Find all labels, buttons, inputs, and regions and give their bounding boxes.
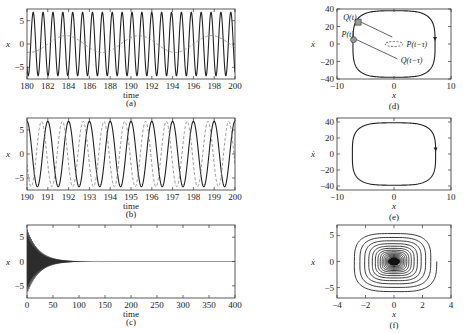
y-tick-label: 5 — [330, 230, 335, 240]
series-line — [27, 121, 235, 186]
panel-label: (f) — [390, 320, 399, 330]
y-tick-label: 5 — [20, 125, 25, 135]
series-line — [27, 230, 235, 292]
x-tick-label: 100 — [72, 300, 86, 310]
y-tick-label: −20 — [320, 57, 335, 67]
x-tick-label: 192 — [145, 81, 159, 91]
figure: 180182184186188190192194196198200−505tim… — [0, 0, 465, 333]
x-tick-label: −4 — [332, 300, 342, 310]
y-axis-label: x — [5, 39, 10, 49]
y-tick-label: −40 — [320, 181, 335, 191]
y-tick-label: 0 — [20, 257, 25, 267]
arrow-q — [361, 22, 392, 37]
y-tick-label: 0 — [330, 149, 335, 159]
y-tick-label: −5 — [14, 62, 24, 72]
panel-f: −4−2024−505x(f)ẋ — [310, 225, 454, 330]
x-tick-label: 10 — [447, 81, 457, 91]
y-tick-label: 5 — [20, 232, 25, 242]
y-tick-label: 20 — [325, 22, 335, 32]
direction-arrow-icon — [434, 148, 438, 152]
x-tick-label: 250 — [150, 300, 164, 310]
x-tick-label: 196 — [187, 81, 201, 91]
limit-cycle — [352, 123, 435, 185]
panel-d: −10010−40−2002040x(d)ẋQ(t)P(t)P(t−τ)Q(t−… — [310, 4, 456, 111]
y-tick-label: 20 — [325, 133, 335, 143]
plot-area — [352, 123, 437, 185]
panel-e: −10010−40−2002040x(e)ẋ — [310, 117, 456, 222]
panel-label: (a) — [126, 98, 136, 108]
x-tick-label: 197 — [166, 192, 180, 202]
y-axis-label: ẋ — [310, 149, 315, 159]
arrow-p — [357, 40, 398, 59]
x-tick-label: 4 — [449, 300, 454, 310]
x-tick-label: 192 — [62, 192, 76, 202]
x-tick-label: 191 — [41, 192, 55, 202]
plot-frame — [27, 118, 235, 190]
panel-label: (c) — [126, 317, 136, 327]
plot-area — [27, 121, 235, 186]
panel-c: 050100150200250300350400−505time(c)x — [5, 225, 242, 327]
panel-b: 190191192193194195196197198199200−505tim… — [5, 118, 242, 219]
x-tick-label: 186 — [83, 81, 97, 91]
x-axis-label: x — [391, 309, 396, 319]
panel-label: (e) — [389, 212, 399, 222]
x-tick-label: 50 — [49, 300, 59, 310]
x-tick-label: 184 — [62, 81, 76, 91]
y-axis-label: ẋ — [310, 257, 315, 267]
x-tick-label: 194 — [166, 81, 180, 91]
spiral-center — [388, 258, 400, 266]
y-axis-label: x — [5, 149, 10, 159]
annotation: Q(t−τ) — [401, 56, 423, 65]
y-tick-label: 5 — [20, 16, 25, 26]
x-tick-label: 190 — [20, 192, 34, 202]
x-axis-label: x — [391, 201, 396, 211]
small-cycle — [385, 42, 403, 47]
y-tick-label: 40 — [325, 4, 335, 14]
x-tick-label: 350 — [202, 300, 216, 310]
y-tick-label: 0 — [20, 149, 25, 159]
y-tick-label: −40 — [320, 74, 335, 84]
x-tick-label: 300 — [176, 300, 190, 310]
x-tick-label: −10 — [330, 192, 345, 202]
x-tick-label: 200 — [228, 81, 242, 91]
y-tick-label: 0 — [330, 257, 335, 267]
plot-area — [27, 230, 235, 292]
annotation: Q(t) — [343, 13, 357, 22]
y-tick-label: −5 — [14, 173, 24, 183]
x-tick-label: 10 — [447, 192, 457, 202]
y-tick-label: 0 — [20, 39, 25, 49]
x-axis-label: x — [391, 90, 396, 100]
x-tick-label: 2 — [420, 300, 425, 310]
y-axis-label: x — [5, 257, 10, 267]
x-tick-label: 180 — [20, 81, 34, 91]
x-tick-label: 196 — [145, 192, 159, 202]
direction-arrow-icon — [433, 37, 437, 41]
x-tick-label: 0 — [25, 300, 30, 310]
x-tick-label: 188 — [103, 81, 117, 91]
plot-area — [354, 234, 436, 292]
x-tick-label: −2 — [361, 300, 371, 310]
panel-label: (d) — [389, 101, 400, 111]
panel-label: (b) — [126, 209, 137, 219]
x-tick-label: 194 — [103, 192, 117, 202]
y-tick-label: 0 — [330, 39, 335, 49]
x-tick-label: 200 — [228, 192, 242, 202]
y-tick-label: −20 — [320, 165, 335, 175]
x-tick-label: 198 — [207, 81, 221, 91]
y-tick-label: 40 — [325, 117, 335, 127]
panel-a: 180182184186188190192194196198200−505tim… — [5, 9, 242, 108]
y-tick-label: −5 — [324, 283, 334, 293]
x-tick-label: 199 — [207, 192, 221, 202]
annotation: P(t−τ) — [406, 40, 428, 49]
x-tick-label: 193 — [83, 192, 97, 202]
x-tick-label: 150 — [98, 300, 112, 310]
x-tick-label: 400 — [228, 300, 242, 310]
plot-area — [27, 12, 235, 75]
y-tick-label: −5 — [14, 281, 24, 291]
x-tick-label: 182 — [41, 81, 55, 91]
plot-frame — [337, 118, 451, 190]
annotation: P(t) — [341, 30, 355, 39]
x-tick-label: 198 — [187, 192, 201, 202]
series-line — [27, 12, 235, 75]
series-line — [27, 121, 235, 186]
